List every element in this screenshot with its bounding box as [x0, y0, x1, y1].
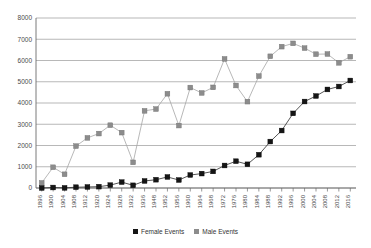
data-point-male — [85, 135, 90, 140]
y-axis-tick-label: 3000 — [18, 121, 33, 128]
x-axis-tick-label: 1932 — [128, 194, 134, 208]
data-point-female — [336, 84, 341, 89]
data-point-female — [142, 179, 147, 184]
data-point-female — [302, 99, 307, 104]
x-axis-tick-label: 1968 — [208, 194, 214, 208]
x-axis-tick-label: 1908 — [71, 194, 77, 208]
y-axis-tick-label: 2000 — [18, 142, 33, 149]
x-axis-tick-label: 2000 — [300, 194, 306, 208]
data-point-male — [279, 44, 284, 49]
data-point-male — [165, 91, 170, 96]
x-axis-tick-label: 1928 — [117, 194, 123, 208]
data-point-male — [188, 85, 193, 90]
x-axis-tick-label: 1972 — [220, 194, 226, 208]
data-point-female — [96, 184, 101, 189]
data-point-male — [119, 130, 124, 135]
y-axis-tick-label: 8000 — [18, 14, 33, 21]
data-point-male — [222, 57, 227, 62]
data-point-female — [211, 169, 216, 174]
series-line-male — [42, 43, 351, 183]
chart-plot-area: 0100020003000400050006000700080001896190… — [0, 0, 371, 248]
y-axis-tick-label: 4000 — [18, 99, 33, 106]
x-axis-tick-label: 2012 — [334, 194, 340, 208]
data-point-female — [314, 94, 319, 99]
data-point-female — [131, 183, 136, 188]
data-point-female — [74, 185, 79, 190]
x-axis-tick-label: 1976 — [231, 194, 237, 208]
data-point-male — [336, 60, 341, 65]
data-point-female — [119, 180, 124, 185]
x-axis-tick-label: 1964 — [197, 194, 203, 208]
legend-item-female-events[interactable]: Female Events — [133, 228, 184, 235]
data-point-male — [51, 165, 56, 170]
x-axis-tick-label: 1924 — [105, 194, 111, 208]
data-point-male — [131, 160, 136, 165]
chart-legend: Female EventsMale Events — [0, 228, 371, 235]
data-point-male — [348, 54, 353, 59]
data-point-male — [176, 123, 181, 128]
data-point-female — [222, 163, 227, 168]
data-point-female — [51, 185, 56, 190]
data-point-male — [154, 107, 159, 112]
legend-swatch-icon — [194, 229, 199, 234]
x-axis-tick-label: 1904 — [60, 194, 66, 208]
x-axis-tick-label: 1900 — [48, 194, 54, 208]
data-point-male — [302, 46, 307, 51]
data-point-male — [245, 99, 250, 104]
legend-swatch-icon — [133, 229, 138, 234]
x-axis-tick-label: 1992 — [277, 194, 283, 208]
data-point-male — [325, 52, 330, 57]
x-axis-tick-label: 1936 — [140, 194, 146, 208]
x-axis-tick-label: 1996 — [288, 194, 294, 208]
data-point-male — [234, 83, 239, 88]
x-axis-tick-label: 2004 — [311, 194, 317, 208]
data-point-female — [108, 183, 113, 188]
data-point-male — [291, 41, 296, 46]
x-axis-tick-label: 1960 — [185, 194, 191, 208]
x-axis-tick-label: 1984 — [254, 194, 260, 208]
data-point-female — [268, 139, 273, 144]
legend-label: Female Events — [141, 228, 184, 235]
data-point-female — [234, 159, 239, 164]
data-point-female — [325, 87, 330, 92]
data-point-female — [188, 173, 193, 178]
x-axis-tick-label: 1920 — [94, 194, 100, 208]
x-axis-tick-label: 1912 — [82, 194, 88, 208]
data-point-male — [142, 108, 147, 113]
legend-label: Male Events — [202, 228, 238, 235]
data-point-male — [256, 74, 261, 79]
data-point-female — [291, 111, 296, 116]
series-line-female — [42, 81, 351, 189]
x-axis-tick-label: 1988 — [265, 194, 271, 208]
data-point-male — [268, 54, 273, 59]
data-point-male — [74, 144, 79, 149]
x-axis-tick-label: 1956 — [174, 194, 180, 208]
data-point-female — [39, 186, 44, 191]
x-axis-tick-label: 1952 — [162, 194, 168, 208]
data-point-female — [245, 162, 250, 167]
y-axis-tick-label: 0 — [28, 184, 32, 191]
data-point-female — [256, 152, 261, 157]
y-axis-tick-label: 5000 — [18, 78, 33, 85]
legend-item-male-events[interactable]: Male Events — [194, 228, 238, 235]
data-point-female — [154, 177, 159, 182]
data-point-male — [96, 131, 101, 136]
y-axis-tick-label: 1000 — [18, 163, 33, 170]
data-point-male — [39, 180, 44, 185]
data-point-male — [108, 123, 113, 128]
data-point-male — [314, 52, 319, 57]
x-axis-tick-label: 2008 — [322, 194, 328, 208]
olympic-events-chart: 0100020003000400050006000700080001896190… — [0, 0, 371, 248]
x-axis-tick-label: 1948 — [151, 194, 157, 208]
data-point-female — [199, 171, 204, 176]
data-point-male — [62, 172, 67, 177]
data-point-female — [176, 178, 181, 183]
data-point-male — [199, 91, 204, 96]
data-point-female — [165, 175, 170, 180]
x-axis-tick-label: 1980 — [242, 194, 248, 208]
x-axis-tick-label: 2016 — [345, 194, 351, 208]
data-point-female — [85, 185, 90, 190]
data-point-female — [279, 128, 284, 133]
data-point-female — [348, 78, 353, 83]
y-axis-tick-label: 6000 — [18, 57, 33, 64]
